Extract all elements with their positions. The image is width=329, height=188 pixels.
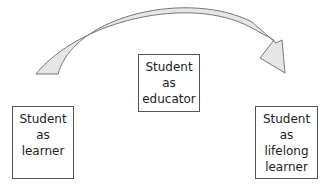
box-line: as (280, 127, 294, 143)
box-line: as (162, 75, 176, 91)
box-line: Student (263, 111, 310, 127)
box-line: as (36, 127, 50, 143)
box-student-as-learner: Student as learner (12, 106, 74, 179)
box-line: educator (142, 91, 196, 107)
diagram-canvas: Student as learner Student as educator S… (0, 0, 329, 188)
box-line: lifelong (264, 143, 308, 159)
box-line: learner (22, 143, 65, 159)
box-line: learner (265, 159, 308, 175)
box-student-as-lifelong-learner: Student as lifelong learner (255, 106, 318, 179)
box-student-as-educator: Student as educator (138, 54, 200, 112)
box-line: Student (19, 111, 66, 127)
box-line: Student (145, 59, 192, 75)
